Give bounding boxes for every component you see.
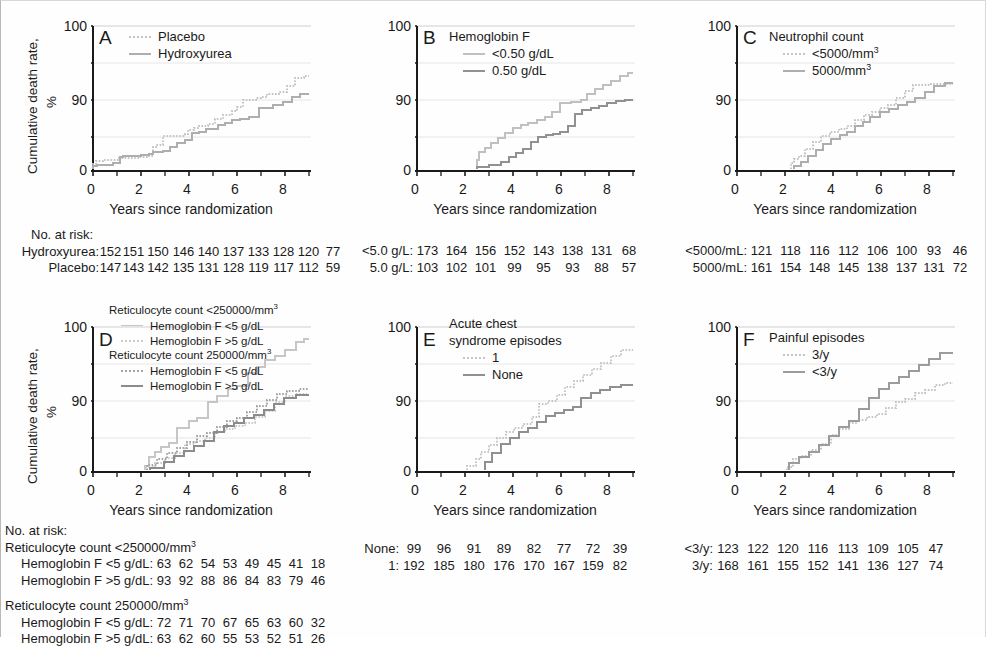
series-line-pain-ge3 [787, 383, 953, 470]
x-axis-title-a: Years since randomization [61, 201, 321, 217]
risk-row-hbf-low: <5.0 g/L: 173 164 156 152 143 138 131 68 [335, 243, 642, 260]
series-line-d4 [150, 395, 309, 470]
y-tick-100-e: 100 [377, 319, 411, 335]
risk-row-values: 152 151 150 146 140 137 133 128 120 77 [99, 244, 345, 261]
panel-letter-c: C [743, 27, 757, 49]
legend-title-e-line1: Acute chest [449, 315, 562, 332]
risk-row-values: 93 92 88 86 84 83 79 46 [153, 573, 329, 590]
risk-row-acs-none: None: 99 96 91 89 82 77 72 39 [343, 541, 633, 558]
risk-row-values: 192 185 180 176 170 167 159 82 [399, 558, 633, 575]
x-tick-2-e: 2 [451, 482, 475, 498]
x-tick-8-e: 8 [595, 482, 619, 498]
legend-swatch-d1-icon [121, 325, 143, 326]
legend-title-e-line2: syndrome episodes [449, 332, 562, 349]
legend-label-hbf-high: 0.50 g/dL [492, 63, 546, 78]
legend-item-hydroxyurea: Hydroxyurea [129, 45, 232, 62]
legend-group-title-d1: Reticulocyte count <250000/mm3 [109, 303, 278, 318]
x-tick-4-f: 4 [819, 482, 843, 498]
y-tick-100-c: 100 [697, 18, 731, 34]
legend-label-acs-ge1: 1 [492, 350, 499, 365]
risk-group-title-d2: Reticulocyte count 250000/mm3 [5, 598, 329, 615]
x-tick-2-a: 2 [127, 181, 151, 197]
risk-row-values: 147 143 142 135 131 128 119 117 112 59 [99, 260, 345, 277]
legend-label-hbf-low: <0.50 g/dL [492, 46, 554, 61]
panel-letter-a: A [99, 27, 112, 49]
y-axis-label-d: Cumulative death rate, [25, 329, 40, 484]
risk-row-label: <3/y: [661, 541, 713, 558]
legend-item-acs-ge1: 1 [449, 349, 562, 366]
risk-row-label: 5.0 g/L: [335, 260, 413, 277]
risk-header-d: No. at risk: [5, 523, 329, 540]
x-tick-8-d: 8 [271, 482, 295, 498]
y-tick-0-e: 0 [377, 463, 411, 479]
legend-swatch-d2-icon [121, 340, 143, 342]
risk-row-label: 5000/mL: [657, 260, 747, 277]
risk-table-a: No. at risk: Hydroxyurea: 152 151 150 14… [3, 227, 345, 277]
x-axis-title-e: Years since randomization [385, 502, 645, 518]
legend-swatch-neutro-low-icon [783, 53, 805, 55]
risk-row-pain-ge3: 3/y: 168 161 155 152 141 136 127 74 [661, 558, 949, 575]
x-tick-8-b: 8 [595, 181, 619, 197]
risk-group-title-d1: Reticulocyte count <250000/mm3 [5, 540, 329, 557]
x-tick-2-c: 2 [771, 181, 795, 197]
x-axis-title-b: Years since randomization [385, 201, 645, 217]
x-tick-4-a: 4 [175, 181, 199, 197]
risk-row-values: 63 62 54 53 49 45 41 18 [153, 556, 329, 573]
risk-row-values: 103 102 101 99 95 93 88 57 [413, 260, 642, 277]
risk-row-neutro-high: 5000/mL: 161 154 148 145 138 137 131 72 [657, 260, 973, 277]
y-tick-100-d: 100 [53, 319, 87, 335]
legend-item-hbf-low: <0.50 g/dL [449, 45, 554, 62]
x-tick-0-c: 0 [723, 181, 747, 197]
risk-row-label: Placebo: [3, 260, 99, 277]
x-tick-8-a: 8 [271, 181, 295, 197]
risk-row-label: 1: [343, 558, 399, 575]
x-tick-8-f: 8 [915, 482, 939, 498]
y-axis-label-a: Cumulative death rate, [25, 19, 40, 174]
x-tick-0-a: 0 [79, 181, 103, 197]
legend-f: Painful episodes 3/y <3/y [769, 329, 864, 380]
x-tick-2-d: 2 [127, 482, 151, 498]
legend-item-pain-lt3: <3/y [769, 363, 864, 380]
legend-label-d4: Hemoglobin F >5 g/dL [150, 380, 263, 392]
y-tick-90-e: 90 [377, 393, 411, 409]
legend-label-pain-ge3: 3/y [812, 347, 829, 362]
legend-item-acs-none: None [449, 366, 562, 383]
y-tick-0-a: 0 [53, 162, 87, 178]
risk-gap [5, 589, 329, 598]
legend-label-pain-lt3: <3/y [812, 364, 837, 379]
legend-label-d1: Hemoglobin F <5 g/dL [150, 320, 263, 332]
risk-row-hbf-high: 5.0 g/L: 103 102 101 99 95 93 88 57 [335, 260, 642, 277]
risk-row-pain-lt3: <3/y: 123 122 120 116 113 109 105 47 [661, 541, 949, 558]
y-tick-90-f: 90 [697, 393, 731, 409]
x-tick-4-d: 4 [175, 482, 199, 498]
x-axis-title-d: Years since randomization [61, 502, 321, 518]
y-tick-90-a: 90 [53, 92, 87, 108]
legend-title-b: Hemoglobin F [449, 28, 554, 45]
legend-title-f: Painful episodes [769, 329, 864, 346]
risk-row-d3: Hemoglobin F <5 g/dL: 72 71 70 67 65 63 … [5, 615, 329, 632]
risk-row-values: 99 96 91 89 82 77 72 39 [399, 541, 633, 558]
legend-item-neutro-low: <5000/mm3 [769, 45, 879, 62]
legend-item-hbf-high: 0.50 g/dL [449, 62, 554, 79]
risk-row-label: None: [343, 541, 399, 558]
panel-e: 100 90 0 [331, 301, 657, 638]
panel-letter-b: B [423, 27, 436, 49]
series-line-hbf-high [477, 100, 633, 169]
legend-item-d4: Hemoglobin F >5 g/dL [109, 378, 278, 393]
x-tick-0-d: 0 [79, 482, 103, 498]
x-axis-title-c: Years since randomization [705, 201, 965, 217]
risk-row-acs-ge1: 1: 192 185 180 176 170 167 159 82 [343, 558, 633, 575]
y-tick-100-f: 100 [697, 319, 731, 335]
x-tick-6-a: 6 [223, 181, 247, 197]
risk-row-label: Hemoglobin F >5 g/dL: [5, 573, 153, 590]
y-tick-90-d: 90 [53, 393, 87, 409]
series-line-placebo [93, 76, 309, 168]
y-tick-0-f: 0 [697, 463, 731, 479]
legend-swatch-acs-ge1-icon [463, 357, 485, 359]
risk-row-label: Hemoglobin F <5 g/dL: [5, 556, 153, 573]
risk-header-a: No. at risk: [3, 227, 345, 244]
panel-letter-f: F [743, 329, 755, 351]
risk-table-e: None: 99 96 91 89 82 77 72 39 1: 192 185 [343, 541, 633, 574]
legend-swatch-hydroxyurea-icon [129, 53, 151, 55]
legend-swatch-hbf-low-icon [463, 53, 485, 55]
